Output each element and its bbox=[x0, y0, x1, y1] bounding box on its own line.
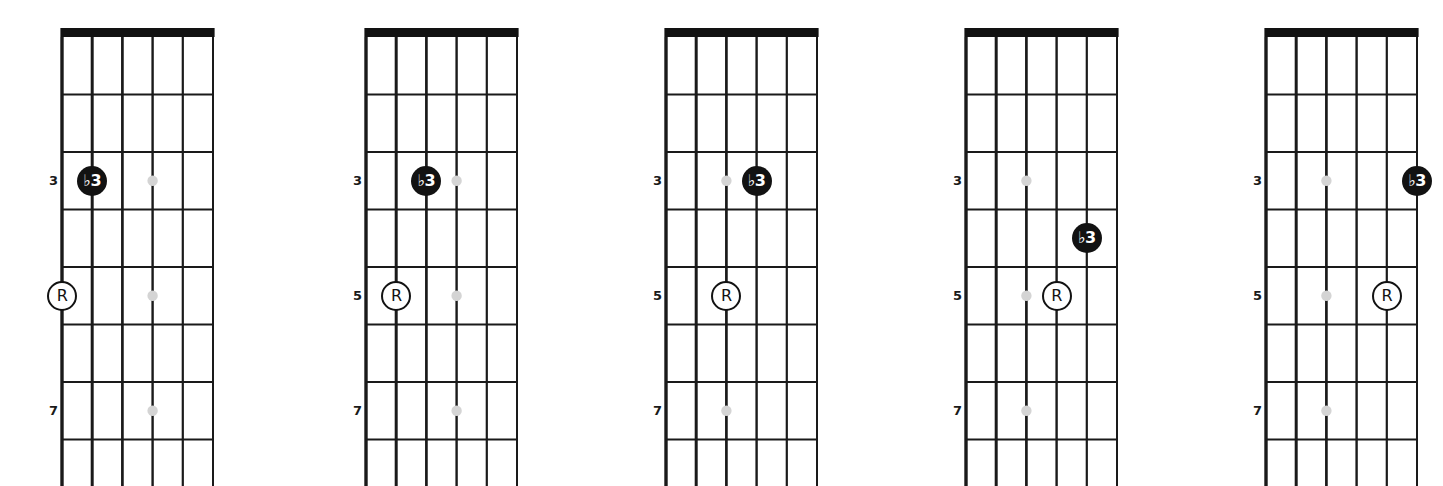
fretboard-diagram-row: 357♭3R357♭3R357♭3R357♭3R357♭3R bbox=[0, 0, 1443, 486]
nut bbox=[60, 28, 214, 37]
fretboard-4: 357♭3R bbox=[904, 0, 1194, 486]
inlay-dot bbox=[451, 176, 461, 186]
nut bbox=[1264, 28, 1418, 37]
flat-third-note-marker: ♭3 bbox=[411, 166, 441, 196]
inlay-dot bbox=[1321, 406, 1331, 416]
note-marker-label: R bbox=[391, 287, 402, 303]
fret-number-label: 5 bbox=[640, 288, 662, 303]
grid-lines bbox=[62, 37, 213, 486]
note-marker-label: R bbox=[721, 287, 732, 303]
note-marker-label: R bbox=[1051, 287, 1062, 303]
fret-number-label: 7 bbox=[340, 403, 362, 418]
note-marker-label: ♭3 bbox=[748, 172, 766, 188]
inlay-dot bbox=[147, 291, 157, 301]
flat-third-note-marker: ♭3 bbox=[742, 166, 772, 196]
fret-number-label: 7 bbox=[640, 403, 662, 418]
inlay-dot bbox=[147, 176, 157, 186]
fretboard-3: 357♭3R bbox=[604, 0, 894, 486]
inlay-dot bbox=[1321, 291, 1331, 301]
nut bbox=[364, 28, 518, 37]
fret-number-label: 3 bbox=[640, 173, 662, 188]
grid-lines bbox=[366, 37, 517, 486]
note-marker-label: R bbox=[57, 287, 68, 303]
fret-number-label: 3 bbox=[1240, 173, 1262, 188]
flat-third-note-marker: ♭3 bbox=[77, 166, 107, 196]
grid-lines bbox=[1266, 37, 1417, 486]
fretboard-2: 357♭3R bbox=[304, 0, 594, 486]
fret-number-label: 3 bbox=[340, 173, 362, 188]
inlay-dot bbox=[451, 291, 461, 301]
fret-number-label: 7 bbox=[36, 403, 58, 418]
inlay-dot bbox=[1021, 406, 1031, 416]
fret-number-label: 7 bbox=[940, 403, 962, 418]
inlay-dot bbox=[147, 406, 157, 416]
nut bbox=[964, 28, 1118, 37]
fret-number-label: 3 bbox=[36, 173, 58, 188]
note-marker-label: R bbox=[1381, 287, 1392, 303]
fret-number-label: 5 bbox=[940, 288, 962, 303]
fretboard-5: 357♭3R bbox=[1204, 0, 1443, 486]
note-marker-label: ♭3 bbox=[418, 172, 436, 188]
inlay-dot bbox=[721, 406, 731, 416]
fretboard-1: 357♭3R bbox=[0, 0, 290, 486]
grid-lines bbox=[666, 37, 817, 486]
fret-number-label: 5 bbox=[1240, 288, 1262, 303]
root-note-marker: R bbox=[47, 281, 77, 311]
fret-number-label: 5 bbox=[340, 288, 362, 303]
note-marker-label: ♭3 bbox=[1078, 230, 1096, 246]
root-note-marker: R bbox=[381, 281, 411, 311]
fret-number-label: 7 bbox=[1240, 403, 1262, 418]
flat-third-note-marker: ♭3 bbox=[1402, 166, 1432, 196]
inlay-dot bbox=[1321, 176, 1331, 186]
root-note-marker: R bbox=[711, 281, 741, 311]
inlay-dot bbox=[1021, 176, 1031, 186]
nut bbox=[664, 28, 818, 37]
note-marker-label: ♭3 bbox=[83, 172, 101, 188]
inlay-dot bbox=[1021, 291, 1031, 301]
inlay-dot bbox=[721, 176, 731, 186]
grid-lines bbox=[966, 37, 1117, 486]
inlay-dot bbox=[451, 406, 461, 416]
root-note-marker: R bbox=[1042, 281, 1072, 311]
note-marker-label: ♭3 bbox=[1408, 172, 1426, 188]
fret-number-label: 3 bbox=[940, 173, 962, 188]
flat-third-note-marker: ♭3 bbox=[1072, 223, 1102, 253]
root-note-marker: R bbox=[1372, 281, 1402, 311]
